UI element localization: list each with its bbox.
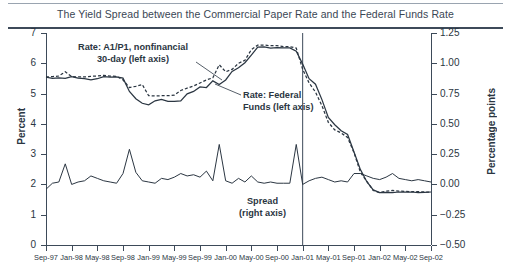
x-tick-label: May-98 xyxy=(85,253,110,262)
right-tick-label: 0.25 xyxy=(440,148,459,159)
x-tick xyxy=(72,246,73,251)
x-tick-label: Sep-98 xyxy=(111,253,135,262)
right-tick xyxy=(432,63,437,64)
fed-funds-rate-line xyxy=(46,47,431,193)
left-tick-label: 7 xyxy=(10,27,36,38)
x-tick-label: Sep-99 xyxy=(188,253,212,262)
annotation-spread-line1: Spread xyxy=(239,196,286,208)
cp-leader-line xyxy=(196,62,222,80)
left-tick-label: 0 xyxy=(10,239,36,250)
annotation-cp-line2: 30-day (left axis) xyxy=(78,54,188,66)
x-tick xyxy=(174,246,175,251)
top-rule xyxy=(8,3,503,4)
x-tick-label: Sep-02 xyxy=(419,253,443,262)
x-tick-label: Jan-00 xyxy=(214,253,237,262)
right-tick xyxy=(432,33,437,34)
annotation-spread: Spread (right axis) xyxy=(239,196,286,219)
x-tick xyxy=(328,246,329,251)
right-tick-label: −0.25 xyxy=(440,209,465,220)
annotation-spread-line2: (right axis) xyxy=(239,208,286,220)
right-tick-label: 0.75 xyxy=(440,88,459,99)
right-axis-title: Percentage points xyxy=(486,88,497,175)
x-tick xyxy=(251,246,252,251)
right-tick xyxy=(432,94,437,95)
annotation-ff-line2: Funds (left axis) xyxy=(243,102,313,114)
left-tick-label: 1 xyxy=(10,209,36,220)
left-tick-label: 3 xyxy=(10,148,36,159)
right-tick xyxy=(432,184,437,185)
x-tick xyxy=(303,246,304,251)
x-tick-label: May-02 xyxy=(393,253,418,262)
x-tick xyxy=(380,246,381,251)
left-tick-label: 2 xyxy=(10,178,36,189)
right-tick xyxy=(432,245,437,246)
annotation-federal-funds: Rate: Federal Funds (left axis) xyxy=(243,90,313,113)
x-tick xyxy=(277,246,278,251)
left-tick-label: 4 xyxy=(10,118,36,129)
left-tick-label: 6 xyxy=(10,57,36,68)
x-tick xyxy=(123,246,124,251)
x-tick xyxy=(46,246,47,251)
left-tick-label: 5 xyxy=(10,88,36,99)
chart-title: The Yield Spread between the Commercial … xyxy=(0,8,511,20)
right-tick xyxy=(432,124,437,125)
x-tick xyxy=(405,246,406,251)
x-tick-label: May-01 xyxy=(316,253,341,262)
x-tick-label: Jan-99 xyxy=(137,253,160,262)
annotation-ff-line1: Rate: Federal xyxy=(243,90,313,102)
right-tick-label: 1.00 xyxy=(440,57,459,68)
x-tick xyxy=(149,246,150,251)
x-tick xyxy=(354,246,355,251)
x-tick xyxy=(226,246,227,251)
right-tick-label: 1.25 xyxy=(440,27,459,38)
annotation-commercial-paper: Rate: A1/P1, nonfinancial 30-day (left a… xyxy=(78,42,188,65)
right-tick-label: −0.50 xyxy=(440,239,465,250)
x-tick-label: Jan-01 xyxy=(291,253,314,262)
figure: The Yield Spread between the Commercial … xyxy=(0,0,511,270)
annotation-cp-line1: Rate: A1/P1, nonfinancial xyxy=(78,42,188,54)
x-tick-label: Sep-97 xyxy=(34,253,58,262)
x-tick-label: Jan-98 xyxy=(60,253,83,262)
x-tick-label: May-00 xyxy=(239,253,264,262)
x-tick-label: May-99 xyxy=(162,253,187,262)
title-underline xyxy=(8,27,503,29)
x-tick-label: Sep-01 xyxy=(342,253,366,262)
right-tick xyxy=(432,154,437,155)
right-tick-label: 0.00 xyxy=(440,178,459,189)
x-tick-label: Jan-02 xyxy=(368,253,391,262)
x-tick xyxy=(200,246,201,251)
x-tick xyxy=(97,246,98,251)
x-axis-line xyxy=(46,245,431,246)
right-tick xyxy=(432,215,437,216)
x-tick xyxy=(431,246,432,251)
right-axis-line xyxy=(431,33,432,245)
right-tick-label: 0.50 xyxy=(440,118,459,129)
x-tick-label: Sep-00 xyxy=(265,253,289,262)
spread-line xyxy=(46,144,431,189)
ff-leader-line xyxy=(215,84,241,95)
